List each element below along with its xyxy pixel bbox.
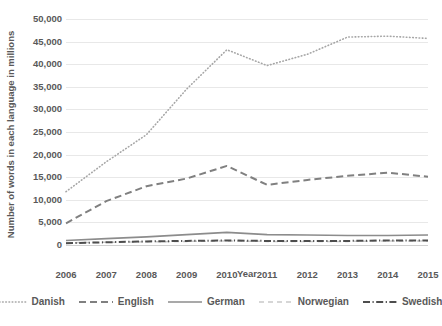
gridline [66, 245, 428, 246]
series-line-english [66, 166, 428, 223]
legend-item-swedish[interactable]: Swedish [363, 296, 442, 307]
y-tick-label: 5,000 [6, 218, 62, 228]
legend-label: Danish [32, 296, 65, 307]
y-tick-label: 10,000 [6, 195, 62, 205]
x-axis-title: Year [66, 268, 428, 279]
y-tick-label: 15,000 [6, 172, 62, 182]
legend-item-norwegian[interactable]: Norwegian [259, 296, 349, 307]
y-tick-label: 30,000 [6, 105, 62, 115]
legend-swatch-swedish-icon [363, 297, 397, 307]
series-line-danish [66, 36, 428, 191]
legend-label: English [118, 296, 154, 307]
legend-item-german[interactable]: German [168, 296, 245, 307]
y-tick-label: 0 [6, 240, 62, 250]
legend-swatch-german-icon [168, 297, 202, 307]
y-tick-label: 50,000 [6, 14, 62, 24]
y-tick-label: 40,000 [6, 59, 62, 69]
legend-label: German [207, 296, 245, 307]
series-line-german [66, 232, 428, 240]
legend-item-english[interactable]: English [79, 296, 154, 307]
y-tick-label: 35,000 [6, 82, 62, 92]
series-lines [66, 19, 428, 245]
legend-swatch-english-icon [79, 297, 113, 307]
chart-legend: DanishEnglishGermanNorwegianSwedish [0, 296, 435, 307]
y-tick-label: 20,000 [6, 150, 62, 160]
plot-area: 2006200720082009201020112012201320142015 [66, 19, 428, 245]
legend-swatch-danish-icon [0, 297, 27, 307]
legend-swatch-norwegian-icon [259, 297, 293, 307]
legend-label: Swedish [402, 296, 442, 307]
y-tick-label: 25,000 [6, 127, 62, 137]
y-axis-tick-labels: 05,00010,00015,00020,00025,00030,00035,0… [6, 0, 62, 268]
legend-item-danish[interactable]: Danish [0, 296, 65, 307]
y-tick-label: 45,000 [6, 37, 62, 47]
legend-label: Norwegian [298, 296, 349, 307]
